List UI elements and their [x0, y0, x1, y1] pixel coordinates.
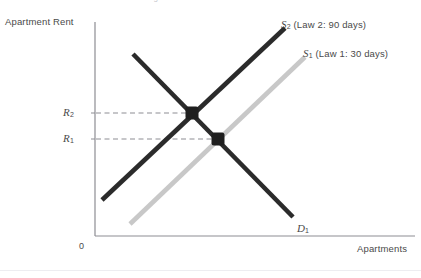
- series-label-s2-subscript: 2: [287, 23, 291, 30]
- y-tick-label-r1-subscript: 1: [70, 137, 74, 144]
- series-label-s2: S2 (Law 2: 90 days): [281, 18, 366, 30]
- equilibrium-point-r2: [186, 107, 199, 120]
- y-tick-label-r1: R1: [63, 132, 74, 144]
- y-tick-label-r2-symbol: R: [63, 106, 70, 118]
- series-label-s1-note: (Law 1: 30 days): [316, 48, 389, 59]
- y-tick-label-r2-subscript: 2: [70, 111, 74, 118]
- y-tick-label-r2: R2: [63, 106, 74, 118]
- y-axis-title: Apartment Rent: [5, 16, 74, 27]
- series-label-s1: S1 (Law 1: 30 days): [303, 47, 388, 59]
- y-tick-label-r1-symbol: R: [63, 132, 70, 144]
- series-label-d1-symbol: D: [297, 222, 305, 234]
- series-label-d1-subscript: 1: [305, 227, 309, 234]
- equilibrium-point-r1: [212, 133, 225, 146]
- x-axis-title: Apartments: [357, 243, 407, 254]
- origin-label: 0: [79, 241, 84, 251]
- bottom-divider: [0, 270, 421, 271]
- series-label-d1: D1: [297, 222, 309, 234]
- series-label-s1-subscript: 1: [309, 52, 313, 59]
- series-label-s2-note: (Law 2: 90 days): [294, 19, 367, 30]
- supply-demand-chart: Apartment Rent Apartments 0 S2 (Law 2: 9…: [0, 0, 421, 278]
